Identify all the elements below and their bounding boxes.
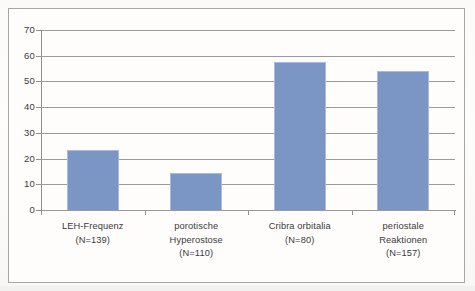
category-label-line: Reaktionen — [352, 234, 456, 248]
bar — [377, 71, 429, 210]
gridline — [41, 56, 455, 57]
y-axis-tick — [36, 159, 41, 160]
category-label: periostaleReaktionen(N=157) — [352, 220, 456, 261]
category-label: LEH-Frequenz(N=139) — [41, 220, 145, 247]
category-label: porotischeHyperostose(N=110) — [145, 220, 249, 261]
category-label-line: LEH-Frequenz — [41, 220, 145, 234]
category-label: Cribra orbitalia(N=80) — [248, 220, 352, 247]
y-axis-tick-label: 20 — [24, 153, 35, 164]
category-label-line: (N=110) — [145, 247, 249, 261]
y-axis-tick-label: 40 — [24, 101, 35, 112]
category-label-line: (N=157) — [352, 247, 456, 261]
y-axis-tick-label: 0 — [30, 204, 35, 215]
scan-edge-shadow — [0, 286, 475, 291]
category-label-line: (N=80) — [248, 234, 352, 248]
y-axis-tick-label: 70 — [24, 24, 35, 35]
x-axis-category-labels: LEH-Frequenz(N=139)porotischeHyperostose… — [41, 220, 456, 278]
category-label-line: porotische — [145, 220, 249, 234]
bar — [170, 173, 222, 210]
y-axis-tick — [36, 107, 41, 108]
plot-area — [41, 30, 455, 210]
gridline — [41, 30, 455, 31]
y-axis-tick — [36, 81, 41, 82]
x-axis-tick-marks — [41, 211, 456, 216]
y-axis-tick-label: 10 — [24, 178, 35, 189]
y-axis-tick — [36, 184, 41, 185]
category-label-line: Hyperostose — [145, 234, 249, 248]
y-axis-tick-labels: 706050403020100 — [14, 30, 35, 210]
x-axis-tick — [41, 211, 42, 215]
y-axis-tick-label: 60 — [24, 50, 35, 61]
x-axis-tick — [145, 211, 146, 215]
category-label-line: (N=139) — [41, 234, 145, 248]
category-label-line: Cribra orbitalia — [248, 220, 352, 234]
x-axis-tick — [454, 211, 455, 215]
y-axis-tick — [36, 133, 41, 134]
bar — [274, 62, 326, 210]
x-axis-tick — [352, 211, 353, 215]
category-label-line: periostale — [352, 220, 456, 234]
bar-chart-figure: 706050403020100 LEH-Frequenz(N=139)porot… — [0, 0, 475, 291]
y-axis-tick-label: 50 — [24, 75, 35, 86]
y-axis-tick — [36, 56, 41, 57]
y-axis-tick-label: 30 — [24, 127, 35, 138]
x-axis-tick — [248, 211, 249, 215]
y-axis-tick — [36, 30, 41, 31]
bar — [67, 150, 119, 210]
